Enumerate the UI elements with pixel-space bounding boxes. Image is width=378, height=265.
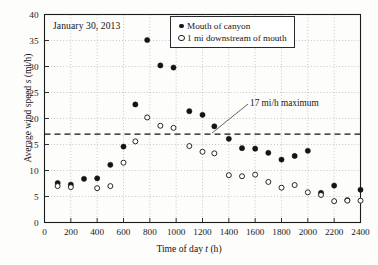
- y-tick-label: 5: [34, 192, 39, 202]
- x-tick-label: 1400: [220, 227, 239, 237]
- x-axis-title-pre: Time of day: [156, 243, 205, 254]
- data-point: [226, 136, 231, 141]
- y-axis-title: Average wind speed s (mi/h): [23, 18, 33, 198]
- data-point: [200, 149, 205, 154]
- data-point: [239, 146, 244, 151]
- data-point: [332, 199, 337, 204]
- data-point: [95, 186, 100, 191]
- data-point: [253, 146, 258, 151]
- series-mouth-of-canyon: [55, 37, 363, 202]
- date-annotation: January 30, 2013: [53, 20, 120, 31]
- x-tick-label: 400: [90, 227, 104, 237]
- data-point: [266, 179, 271, 184]
- threshold-annotation-label: 17 mi/h maximum: [250, 98, 319, 108]
- data-point: [108, 162, 113, 167]
- x-tick-label: 1200: [193, 227, 212, 237]
- x-tick-label: 2200: [325, 227, 344, 237]
- data-point: [240, 174, 245, 179]
- data-point: [253, 172, 258, 177]
- data-point: [187, 109, 192, 114]
- data-point: [358, 198, 363, 203]
- y-axis-title-symbol: s: [23, 80, 33, 84]
- y-axis-title-pre: Average wind speed: [23, 83, 33, 162]
- data-point: [226, 173, 231, 178]
- data-point: [266, 150, 271, 155]
- legend-item-mouth-of-canyon: Mouth of canyon: [176, 20, 287, 32]
- data-point: [55, 184, 60, 189]
- open-circle-icon: [176, 35, 187, 41]
- data-point: [332, 183, 337, 188]
- x-tick-label: 200: [64, 227, 78, 237]
- x-tick-label: 600: [117, 227, 131, 237]
- series-downstream: [55, 115, 363, 204]
- data-point: [292, 183, 297, 188]
- data-point: [358, 187, 363, 192]
- data-point: [279, 157, 284, 162]
- legend-label-downstream: 1 mi downstream of mouth: [187, 32, 287, 44]
- legend-item-downstream: 1 mi downstream of mouth: [176, 32, 287, 44]
- chart-legend: Mouth of canyon 1 mi downstream of mouth: [170, 16, 295, 48]
- data-point: [171, 125, 176, 130]
- x-tick-label: 1000: [167, 227, 186, 237]
- x-axis-title: Time of day t (h): [0, 243, 378, 254]
- data-point: [319, 192, 324, 197]
- wind-speed-chart-figure: 0510152025303540020040060080010001200140…: [0, 0, 378, 265]
- x-tick-label: 1600: [246, 227, 265, 237]
- data-point: [108, 184, 113, 189]
- data-point: [212, 151, 217, 156]
- data-point: [200, 112, 205, 117]
- data-point: [305, 190, 310, 195]
- data-point: [171, 65, 176, 70]
- data-point: [145, 37, 150, 42]
- y-tick-label: 0: [34, 218, 39, 228]
- data-point: [292, 153, 297, 158]
- x-tick-label: 2000: [299, 227, 318, 237]
- annotation-leader-line: [212, 104, 248, 133]
- data-point: [68, 185, 73, 190]
- data-point: [95, 176, 100, 181]
- data-point: [145, 115, 150, 120]
- data-point: [279, 185, 284, 190]
- x-tick-label: 1800: [272, 227, 291, 237]
- data-point: [187, 144, 192, 149]
- data-point: [121, 144, 126, 149]
- x-tick-label: 0: [42, 227, 47, 237]
- data-point: [158, 63, 163, 68]
- data-point: [121, 160, 126, 165]
- x-tick-label: 2400: [351, 227, 370, 237]
- data-point: [212, 124, 217, 129]
- data-point: [345, 198, 350, 203]
- x-axis-title-post: (h): [208, 243, 222, 254]
- data-point: [81, 176, 86, 181]
- x-tick-label: 800: [143, 227, 157, 237]
- data-point: [158, 123, 163, 128]
- filled-circle-icon: [176, 24, 187, 28]
- data-point: [133, 102, 138, 107]
- legend-label-mouth-of-canyon: Mouth of canyon: [187, 20, 250, 32]
- y-axis-title-post: (mi/h): [23, 53, 33, 79]
- data-point: [305, 148, 310, 153]
- data-point: [133, 139, 138, 144]
